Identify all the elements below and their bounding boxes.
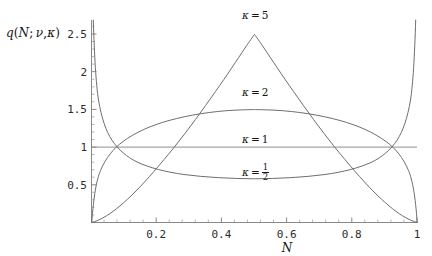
chart-svg: 0.5 1 1.5 2 2.5 0.2 0.4 0.6 0.8 1 N [0, 0, 432, 256]
curve-label-kappa-1: κ=1 [242, 133, 268, 145]
kappa-2-value: 2 [262, 86, 269, 98]
chart-figure: q(N; ν,κ) [0, 0, 432, 256]
kappa-half-symbol: κ [242, 166, 249, 178]
y-tick-label: 0.5 [67, 179, 87, 192]
y-tick-label: 1 [80, 141, 87, 154]
y-tick-label: 2.5 [67, 28, 87, 41]
kappa-5-value: 5 [262, 9, 269, 21]
x-axis-title: N [281, 241, 293, 255]
curve-kappa-half [93, 20, 415, 179]
kappa-half-fraction: 12 [262, 163, 269, 181]
x-tick-label: 0.2 [146, 228, 166, 241]
curve-kappa-5 [92, 35, 417, 223]
y-tick-label: 1.5 [67, 103, 87, 116]
kappa-1-equals: = [251, 133, 260, 145]
kappa-1-symbol: κ [242, 133, 249, 145]
kappa-half-denominator: 2 [262, 173, 269, 182]
curve-label-kappa-half: κ=12 [242, 163, 269, 181]
curve-label-kappa-5: κ=5 [242, 9, 268, 21]
kappa-half-equals: = [251, 166, 260, 178]
kappa-2-equals: = [251, 86, 260, 98]
kappa-5-equals: = [251, 9, 260, 21]
x-axis-tick-labels: 0.2 0.4 0.6 0.8 1 [146, 228, 420, 241]
curve-label-kappa-2: κ=2 [242, 86, 268, 98]
kappa-1-value: 1 [262, 133, 269, 145]
kappa-5-symbol: κ [242, 9, 249, 21]
y-axis-tick-labels: 0.5 1 1.5 2 2.5 [67, 28, 87, 192]
x-tick-label: 0.6 [277, 228, 297, 241]
x-tick-label: 0.8 [342, 228, 362, 241]
x-tick-label: 0.4 [211, 228, 231, 241]
y-tick-label: 2 [80, 66, 87, 79]
x-tick-label: 1 [414, 228, 421, 241]
kappa-2-symbol: κ [242, 86, 249, 98]
y-axis-major-ticks [92, 34, 97, 223]
